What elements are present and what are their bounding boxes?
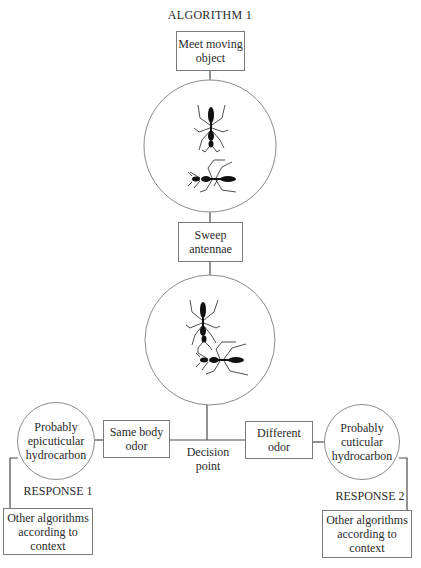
node-other-algorithms-2: Other algorithms according to context (322, 510, 412, 558)
node-meet-moving-object: Meet moving object (176, 31, 245, 71)
node-other2-label: Other algorithms according to context (325, 513, 409, 555)
decision-point-label: Decision point (180, 445, 236, 473)
node-cuticular-label: Probably cuticular hydrocarbon (328, 421, 396, 463)
node-same-body-odor: Same body odor (103, 420, 170, 458)
node-epicuticular-hydrocarbon: Probably epicuticular hydrocarbon (17, 402, 95, 480)
connector-response1 (10, 458, 18, 508)
node-sweep-antennae: Sweep antennae (178, 222, 243, 262)
response-2-label: RESPONSE 2 (330, 489, 410, 503)
response-1-label: RESPONSE 1 (18, 484, 98, 498)
node-same-odor-label: Same body odor (104, 425, 169, 453)
flowchart-connectors (0, 0, 421, 568)
node-sweep-label: Sweep antennae (179, 228, 242, 256)
diagram-title: ALGORITHM 1 (150, 8, 270, 22)
node-cuticular-hydrocarbon: Probably cuticular hydrocarbon (324, 404, 400, 480)
illustration-circle-2 (145, 275, 275, 405)
node-different-odor-label: Different odor (246, 426, 312, 454)
node-other1-label: Other algorithms according to context (6, 511, 90, 553)
node-epicuticular-label: Probably epicuticular hydrocarbon (21, 420, 91, 462)
node-meet-label: Meet moving object (177, 37, 244, 65)
node-different-odor: Different odor (245, 421, 313, 459)
node-other-algorithms-1: Other algorithms according to context (3, 508, 93, 555)
